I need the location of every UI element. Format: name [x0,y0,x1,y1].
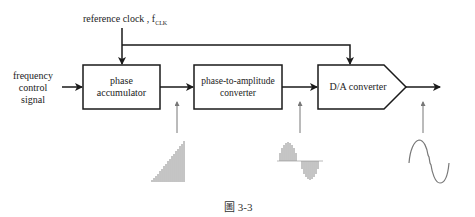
da-converter-label: D/A converter [318,81,398,93]
sampled-sine-waveform-icon [277,142,323,180]
analog-sine-waveform-icon [409,140,449,183]
clock-lines [122,28,350,64]
phase-to-amplitude-label: phase-to-amplitude converter [194,75,282,99]
ramp-waveform-icon [152,141,184,182]
frequency-control-signal-label: frequency control signal [6,70,60,106]
phase-accumulator-label: phase accumulator [83,75,160,99]
figure-caption: 圖 3-3 [224,198,252,214]
dds-block-diagram [0,0,475,217]
reference-clock-label: reference clock , fCLK [83,13,167,29]
